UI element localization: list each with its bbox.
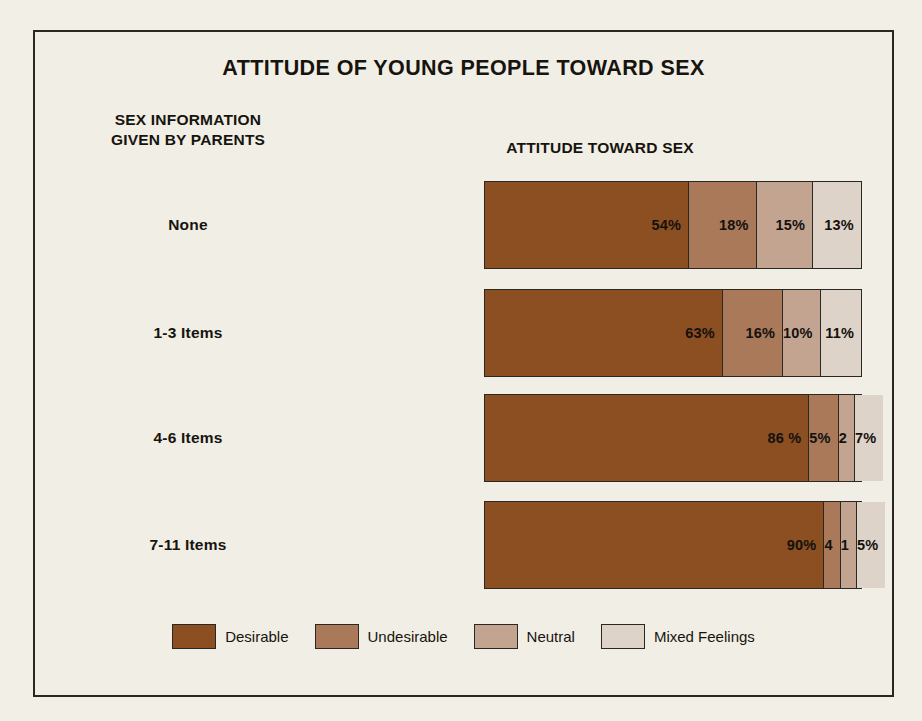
legend-swatch-icon — [474, 624, 518, 649]
chart-legend: DesirableUndesirableNeutralMixed Feeling… — [35, 624, 892, 649]
chart-frame: ATTITUDE OF YOUNG PEOPLE TOWARD SEX SEX … — [33, 30, 894, 697]
bar-segment-value-label: 5% — [857, 537, 885, 553]
legend-item-label: Undesirable — [368, 628, 448, 645]
bar-segment: 1 — [840, 502, 856, 588]
bar-segment-value-label: 16% — [745, 325, 782, 341]
bar-row-category-label: None — [53, 181, 323, 269]
bar-segment-value-label: 10% — [783, 325, 820, 341]
bar-segment: 2 — [838, 395, 854, 481]
bar-segment-value-label: 18% — [719, 217, 756, 233]
bar-segment: 18% — [688, 182, 756, 268]
bar-segment-value-label: 4 — [824, 537, 839, 553]
bar-row: 1-3 Items63%16%10%11% — [35, 289, 892, 377]
bar-segment: 4 — [823, 502, 839, 588]
bar-segment-value-label: 11% — [825, 325, 861, 341]
legend-item-label: Desirable — [225, 628, 288, 645]
legend-item: Undesirable — [315, 624, 448, 649]
stacked-bar-track: 90%415% — [484, 501, 862, 589]
legend-swatch-icon — [601, 624, 645, 649]
bar-segment-value-label: 15% — [775, 217, 812, 233]
bar-segment: 10% — [782, 290, 820, 376]
bar-segment: 15% — [756, 182, 812, 268]
bar-row-category-label: 7-11 Items — [53, 501, 323, 589]
bar-segment-value-label: 5% — [809, 430, 837, 446]
bar-segment-value-label: 90% — [787, 537, 824, 553]
bar-segment: 5% — [808, 395, 837, 481]
bar-segment-value-label: 86 % — [768, 430, 809, 446]
bar-row: 4-6 Items86 %5%27% — [35, 394, 892, 482]
bar-segment: 86 % — [485, 395, 808, 481]
bar-segment-value-label: 1 — [841, 537, 856, 553]
stacked-bar-track: 86 %5%27% — [484, 394, 862, 482]
bar-row: None54%18%15%13% — [35, 181, 892, 269]
bar-segment: 13% — [812, 182, 861, 268]
bar-row-category-label: 4-6 Items — [53, 394, 323, 482]
bar-segment: 11% — [820, 290, 861, 376]
bar-row: 7-11 Items90%415% — [35, 501, 892, 589]
bar-segment-value-label: 2 — [839, 430, 854, 446]
bar-segment: 7% — [854, 395, 883, 481]
bar-segment-value-label: 63% — [685, 325, 722, 341]
legend-item: Neutral — [474, 624, 575, 649]
bar-segment-value-label: 7% — [855, 430, 883, 446]
legend-item-label: Mixed Feelings — [654, 628, 755, 645]
bar-segment: 90% — [485, 502, 823, 588]
bar-segment: 54% — [485, 182, 688, 268]
bar-segment: 63% — [485, 290, 722, 376]
bar-segment: 16% — [722, 290, 782, 376]
bar-segment-value-label: 54% — [651, 217, 688, 233]
stacked-bar-track: 54%18%15%13% — [484, 181, 862, 269]
legend-item-label: Neutral — [527, 628, 575, 645]
legend-swatch-icon — [315, 624, 359, 649]
legend-item: Mixed Feelings — [601, 624, 755, 649]
plot-area: None54%18%15%13%1-3 Items63%16%10%11%4-6… — [35, 32, 892, 695]
legend-swatch-icon — [172, 624, 216, 649]
bar-row-category-label: 1-3 Items — [53, 289, 323, 377]
bar-segment-value-label: 13% — [824, 217, 861, 233]
legend-item: Desirable — [172, 624, 288, 649]
bar-segment: 5% — [856, 502, 885, 588]
stacked-bar-track: 63%16%10%11% — [484, 289, 862, 377]
